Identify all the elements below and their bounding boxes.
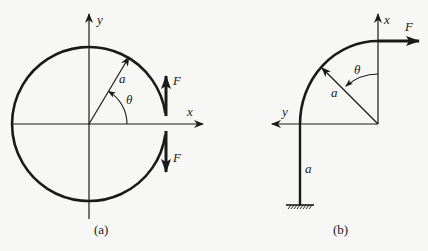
theta-label-a: θ — [126, 92, 133, 107]
theta-arc-b — [346, 74, 378, 86]
theta-arc-a — [109, 91, 127, 124]
force-upper-label: F — [172, 73, 182, 88]
radius-a-arrow — [89, 57, 129, 124]
post-length-label: a — [305, 161, 312, 176]
y-axis-label-a: y — [95, 12, 103, 27]
force-lower-label: F — [172, 150, 182, 165]
caption-a: (a) — [94, 222, 108, 237]
diagram-canvas: y x a θ F F (a) — [0, 0, 428, 251]
figure-a: y x a θ F F (a) — [12, 12, 203, 237]
caption-b: (b) — [333, 222, 348, 237]
x-axis-label-a: x — [186, 104, 193, 119]
force-label-b: F — [404, 19, 414, 34]
radius-label-b: a — [331, 85, 338, 100]
figure-b: x y F θ a a (b) — [272, 12, 419, 237]
x-axis-label-b: x — [383, 12, 390, 27]
y-axis-label-b: y — [280, 104, 288, 119]
radius-label-a: a — [119, 71, 126, 86]
theta-label-b: θ — [354, 62, 361, 77]
fixed-support-icon — [286, 205, 314, 209]
